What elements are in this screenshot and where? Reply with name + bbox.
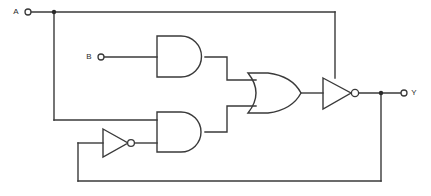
junction-group — [52, 10, 383, 95]
input-a-terminal[interactable] — [25, 9, 31, 15]
output-y-label: Y — [411, 88, 417, 97]
gate-group — [103, 36, 359, 157]
wire-and-bottom-to-or — [205, 106, 256, 132]
junction-y-split — [379, 91, 383, 95]
wire-and-top-to-or — [205, 57, 256, 80]
logic-circuit-diagram: A B Y — [0, 0, 431, 196]
not-gate-output-bubble — [351, 89, 358, 96]
not-gate-feedback-bubble — [128, 140, 135, 147]
input-a-label: A — [13, 7, 19, 16]
and-gate-bottom — [157, 112, 201, 152]
and-gate-top — [157, 36, 201, 77]
not-gate-feedback — [103, 129, 128, 157]
output-y-terminal[interactable] — [401, 90, 407, 96]
not-gate-output — [323, 78, 351, 109]
input-b-terminal[interactable] — [98, 54, 104, 60]
input-b-label: B — [86, 52, 91, 61]
or-gate — [248, 73, 301, 113]
circuit-canvas: A B Y — [0, 0, 431, 196]
port-group: A B Y — [13, 7, 417, 97]
junction-a-split — [52, 10, 56, 14]
